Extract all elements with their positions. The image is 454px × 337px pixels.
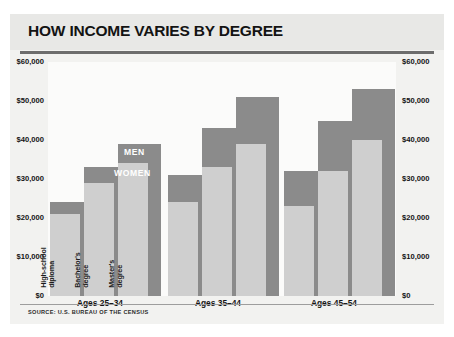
x-group-label-1: Ages 25–34 <box>44 298 156 308</box>
bar-women-3-2[interactable] <box>318 171 348 296</box>
bar-pair-2-3 <box>236 62 279 296</box>
y-axis-left: $60,000$50,000$40,000$30,000$20,000$10,0… <box>10 62 48 296</box>
footer-divider <box>20 304 434 305</box>
y-axis-right: $60,000$50,000$40,000$30,000$20,000$10,0… <box>396 62 444 296</box>
y-tick-right-60000: $60,000 <box>402 57 429 66</box>
bar-women-3-3[interactable] <box>352 140 382 296</box>
bar-women-2-3[interactable] <box>236 144 266 296</box>
title-divider <box>20 51 434 54</box>
bar-group-3 <box>284 62 396 296</box>
y-tick-left-20000: $20,000 <box>17 213 44 222</box>
y-tick-left-10000: $10,000 <box>17 252 44 261</box>
y-tick-right-20000: $20,000 <box>402 213 429 222</box>
bar-women-2-2[interactable] <box>202 167 232 296</box>
bar-pair-3-3 <box>352 62 395 296</box>
y-tick-left-50000: $50,000 <box>17 96 44 105</box>
bar-group-1: High-school diplomaBachelor's degreeMast… <box>50 62 162 296</box>
y-tick-left-0: $0 <box>36 291 44 300</box>
y-tick-right-10000: $10,000 <box>402 252 429 261</box>
y-tick-right-40000: $40,000 <box>402 135 429 144</box>
x-group-label-2: Ages 35–44 <box>162 298 274 308</box>
bar-women-3-1[interactable] <box>284 206 314 296</box>
plot-area: High-school diplomaBachelor's degreeMast… <box>48 62 396 296</box>
y-tick-left-60000: $60,000 <box>17 57 44 66</box>
y-tick-right-30000: $30,000 <box>402 174 429 183</box>
title-band: HOW INCOME VARIES BY DEGREE <box>10 14 444 50</box>
y-tick-right-0: $0 <box>402 291 410 300</box>
y-tick-right-50000: $50,000 <box>402 96 429 105</box>
source-note: SOURCE: U.S. BUREAU OF THE CENSUS <box>28 309 149 315</box>
series-label-men: MEN <box>124 147 145 157</box>
category-label-3: Master's degree <box>108 260 125 288</box>
bar-group-2 <box>168 62 280 296</box>
y-tick-left-40000: $40,000 <box>17 135 44 144</box>
chart-card: HOW INCOME VARIES BY DEGREE High-school … <box>10 14 444 324</box>
series-label-women: WOMEN <box>114 168 151 178</box>
bar-pair-1-3: Master's degree <box>118 62 161 296</box>
bar-women-2-1[interactable] <box>168 202 198 296</box>
page-title: HOW INCOME VARIES BY DEGREE <box>28 22 283 40</box>
category-label-2: Bachelor's degree <box>74 253 91 288</box>
x-group-label-3: Ages 45–54 <box>278 298 390 308</box>
y-tick-left-30000: $30,000 <box>17 174 44 183</box>
